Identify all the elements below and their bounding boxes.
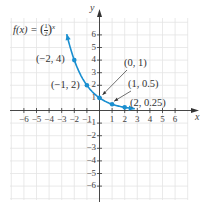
x-tick-label: −3 (57, 115, 67, 124)
y-tick-label: 3 (92, 68, 97, 77)
y-tick-label: 2 (92, 80, 97, 89)
y-tick-label: 5 (92, 43, 97, 52)
data-point (97, 96, 102, 101)
x-tick-label: −4 (44, 115, 54, 124)
point-label-1-0.5: (1, 0.5) (128, 79, 159, 90)
point-label-2-0.25: (2, 0.25) (130, 98, 166, 109)
data-point (122, 105, 127, 110)
point-label-neg1-2: (−1, 2) (51, 80, 80, 91)
x-tick-label: 3 (135, 115, 140, 124)
y-tick-label: −3 (86, 143, 96, 152)
data-point (110, 102, 115, 107)
x-tick-label: 4 (148, 115, 153, 124)
x-tick-label: 2 (122, 115, 127, 124)
y-axis-arrow-icon (97, 9, 102, 17)
y-tick-label: −4 (86, 156, 96, 165)
function-label-lhs: f(x) = (13, 24, 40, 35)
y-tick-label: −5 (86, 169, 96, 178)
function-label-exponent: x (52, 23, 55, 31)
y-tick-label: 1 (92, 93, 97, 102)
leader-arrow-0-1 (103, 70, 128, 95)
x-tick-label: 5 (160, 115, 165, 124)
y-axis-label: y (90, 3, 94, 13)
x-tick-label: −2 (70, 115, 80, 124)
point-label-neg2-4: (−2, 4) (36, 54, 65, 65)
x-tick-label: −5 (32, 115, 42, 124)
y-tick-label: −6 (86, 181, 96, 190)
y-tick-label: −2 (86, 131, 96, 140)
x-tick-label: 1 (110, 115, 115, 124)
x-tick-label: −6 (19, 115, 29, 124)
data-point (72, 58, 77, 63)
x-axis-label: x (195, 112, 199, 122)
point-label-0-1: (0, 1) (124, 58, 147, 69)
data-point (85, 83, 90, 88)
y-tick-label: −1 (86, 118, 96, 127)
function-label: f(x) = (12)x (13, 22, 55, 38)
y-tick-label: 6 (92, 30, 97, 39)
y-tick-label: 4 (92, 55, 97, 64)
x-tick-label: 6 (173, 115, 178, 124)
